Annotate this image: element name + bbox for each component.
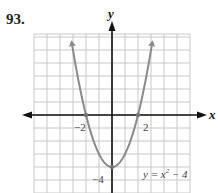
x-tick-label-2: 2 — [143, 121, 149, 133]
curve-right-arrow — [148, 40, 155, 46]
x-axis-label: x — [208, 107, 216, 122]
x-tick-label-neg2: −2 — [74, 121, 86, 133]
graph: x y −2 2 −4 y = x2 − 4 — [0, 0, 218, 193]
function-label-rhs: − 4 — [169, 168, 188, 180]
marked-point — [84, 113, 88, 117]
function-label-lhs: y = x — [142, 168, 166, 180]
marked-point — [110, 165, 114, 169]
y-axis-up-arrow — [109, 21, 116, 31]
x-axis-left-arrow — [22, 112, 32, 119]
svg-text:y = x2 − 4: y = x2 − 4 — [142, 167, 188, 180]
curve-left-arrow — [69, 40, 76, 46]
y-tick-label-neg4: −4 — [92, 173, 104, 185]
y-axis-label: y — [106, 6, 114, 21]
marked-point — [136, 113, 140, 117]
function-label: y = x2 − 4 — [142, 167, 188, 180]
x-axis-right-arrow — [197, 112, 207, 119]
